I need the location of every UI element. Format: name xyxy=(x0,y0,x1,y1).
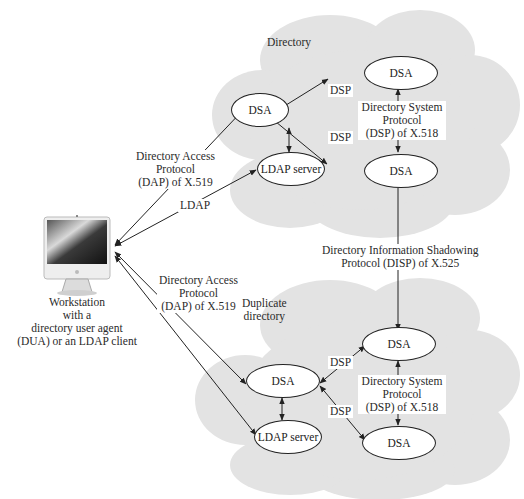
duplicate-dsp-label-2: DSP xyxy=(328,405,353,418)
label-line: Directory System xyxy=(360,375,444,388)
duplicate-dsp-label-1: DSP xyxy=(328,356,353,369)
label-line: Protocol xyxy=(360,114,444,127)
label-line: (DAP) of X.519 xyxy=(159,300,238,313)
label-line: Protocol (DISP) of X.525 xyxy=(322,257,479,270)
duplicate-dsa-top: DSA xyxy=(362,327,436,361)
directory-dsp-protocol-label: Directory System Protocol (DSP) of X.518 xyxy=(358,101,446,140)
label-line: Protocol xyxy=(360,388,444,401)
duplicate-ldap-server: LDAP server xyxy=(254,420,322,454)
dap-bottom-label: Directory Access Protocol (DAP) of X.519 xyxy=(157,274,240,313)
dap-top-label: Directory Access Protocol (DAP) of X.519 xyxy=(134,150,217,189)
label-line: Directory Information Shadowing xyxy=(322,244,479,257)
workstation-label: Workstation with a directory user agent … xyxy=(14,296,140,348)
label-line: Protocol xyxy=(136,163,215,176)
label-line: Directory System xyxy=(360,101,444,114)
duplicate-dsa-bottom: DSA xyxy=(362,426,436,460)
desktop-computer-icon xyxy=(44,215,110,296)
label-line: (DSP) of X.518 xyxy=(360,127,444,140)
duplicate-dsa-main: DSA xyxy=(246,364,320,398)
directory-dsp-label-2: DSP xyxy=(328,131,353,144)
label-line: (DAP) of X.519 xyxy=(136,176,215,189)
label-line: (DSP) of X.518 xyxy=(360,401,444,414)
directory-dsa-main: DSA xyxy=(231,93,289,127)
directory-dsp-label-1: DSP xyxy=(328,84,353,97)
disp-label: Directory Information Shadowing Protocol… xyxy=(320,244,481,270)
label-line: Duplicate xyxy=(242,297,287,310)
label-line: Directory Access xyxy=(136,150,215,163)
directory-dsa-bottom: DSA xyxy=(364,154,438,188)
label-line: directory user agent xyxy=(14,322,140,335)
directory-dsa-top: DSA xyxy=(364,56,438,90)
label-line: Protocol xyxy=(159,287,238,300)
label-line: Directory Access xyxy=(159,274,238,287)
label-line: with a xyxy=(14,309,140,322)
ldap-label: LDAP xyxy=(178,199,212,212)
directory-title: Directory xyxy=(267,36,311,49)
duplicate-dsp-protocol-label: Directory System Protocol (DSP) of X.518 xyxy=(358,375,446,414)
duplicate-directory-title: Duplicate directory xyxy=(242,297,287,323)
label-line: directory xyxy=(242,310,287,323)
label-line: (DUA) or an LDAP client xyxy=(14,335,140,348)
label-line: Workstation xyxy=(14,296,140,309)
directory-ldap-server: LDAP server xyxy=(257,152,325,186)
